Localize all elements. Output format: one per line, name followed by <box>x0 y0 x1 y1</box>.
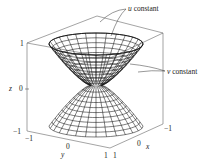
svg-text:0: 0 <box>66 142 70 151</box>
svg-text:0: 0 <box>137 139 141 148</box>
v-constant-label: v constant <box>167 67 198 76</box>
svg-text:1: 1 <box>104 151 108 160</box>
svg-text:−1: −1 <box>13 127 21 136</box>
y-axis: −1 0 1 y <box>25 134 108 160</box>
hourglass-surface <box>49 33 143 137</box>
svg-text:0: 0 <box>19 84 23 93</box>
svg-text:z: z <box>8 84 12 93</box>
svg-text:1: 1 <box>20 39 24 48</box>
svg-text:−1: −1 <box>25 134 33 143</box>
u-constant-label: u constant <box>128 4 160 13</box>
svg-text:−1: −1 <box>164 124 172 133</box>
annotation-leaders <box>100 9 165 72</box>
svg-text:x: x <box>145 142 150 151</box>
svg-text:1: 1 <box>113 151 117 160</box>
z-axis: 1 0 −1 z <box>8 39 29 136</box>
bounding-box <box>27 16 163 148</box>
x-axis: 1 0 −1 x <box>113 124 172 160</box>
svg-text:y: y <box>60 150 65 159</box>
surface-plot: u constant v constant 1 0 −1 z −1 0 1 y … <box>0 0 211 160</box>
